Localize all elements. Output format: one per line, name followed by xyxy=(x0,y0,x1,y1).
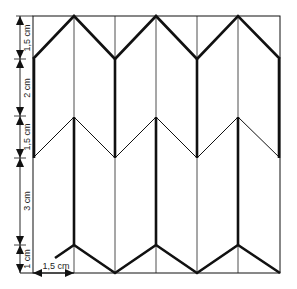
bottom-zigzag-fold xyxy=(55,245,280,273)
dim-label-1: 1,5 cm xyxy=(22,24,32,51)
dim-label-3: 1,5 cm xyxy=(22,123,32,150)
dim-label-2: 2 cm xyxy=(22,78,32,98)
top-zigzag-fold xyxy=(33,16,280,59)
lower-band-thick-folds xyxy=(74,117,238,245)
dim-label-4: 3 cm xyxy=(22,191,32,211)
fold-pattern-diagram: 1,5 cm 2 cm 1,5 cm 3 cm 1 cm 1,5 cm xyxy=(0,0,297,289)
dim-label-5: 1 cm xyxy=(22,249,32,269)
dim-label-horizontal: 1,5 cm xyxy=(42,261,69,271)
